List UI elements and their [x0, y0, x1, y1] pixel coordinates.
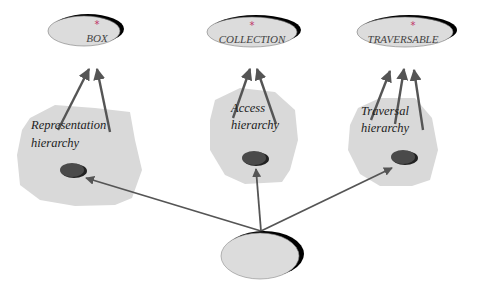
- class-node-bottom[interactable]: [221, 231, 304, 279]
- class-node-traversable[interactable]: * TRAVERSABLE: [357, 15, 457, 47]
- deferred-marker: *: [411, 20, 416, 31]
- class-label-traversable: TRAVERSABLE: [368, 33, 439, 45]
- class-node-box[interactable]: * BOX: [48, 14, 124, 46]
- deferred-marker: *: [250, 20, 255, 31]
- class-node-collection[interactable]: * COLLECTION: [207, 15, 301, 47]
- class-label-collection: COLLECTION: [219, 33, 286, 45]
- inheritance-diagram: * BOX * COLLECTION * TRAVERSABLE Represe…: [0, 0, 477, 290]
- deferred-marker: *: [95, 19, 100, 30]
- class-label-box: BOX: [86, 32, 109, 44]
